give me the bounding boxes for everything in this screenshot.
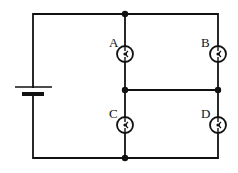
junction-middle-left <box>122 87 128 93</box>
bulb-b-icon <box>210 46 226 62</box>
junction-bottom-middle <box>122 155 128 161</box>
junction-top-middle <box>122 11 128 17</box>
bulb-c-label: C <box>109 106 118 121</box>
junction-middle-right <box>215 87 221 93</box>
bulb-c-icon <box>117 117 133 133</box>
battery-icon <box>15 87 52 94</box>
bulb-d-label: D <box>201 106 210 121</box>
bulb-b-label: B <box>201 35 210 50</box>
circuit-diagram: A B C D <box>0 0 238 173</box>
bulb-d-icon <box>210 117 226 133</box>
bulb-a-label: A <box>109 35 119 50</box>
bulb-a-icon <box>117 46 133 62</box>
